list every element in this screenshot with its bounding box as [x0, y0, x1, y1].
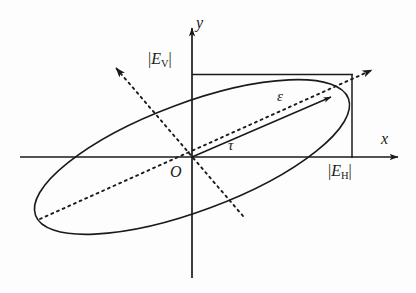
- ev-close-bar: |: [169, 50, 172, 67]
- eh-subscript: H: [341, 170, 349, 181]
- polarization-ellipse-figure: y x O |EV| |EH| ε τ: [0, 0, 416, 293]
- eh-symbol: E: [331, 162, 341, 179]
- semi-major-solid-ray: [192, 97, 331, 157]
- eh-close-bar: |: [349, 162, 352, 179]
- horizontal-amplitude-label: |EH|: [328, 163, 352, 181]
- major-axis-dashed-line: [40, 70, 372, 219]
- figure-canvas: [0, 0, 416, 293]
- vertical-amplitude-label: |EV|: [148, 51, 172, 69]
- ev-symbol: E: [151, 50, 161, 67]
- y-axis-label: y: [196, 15, 203, 31]
- ellipticity-angle-label: ε: [277, 89, 283, 104]
- ev-subscript: V: [161, 58, 169, 69]
- origin-label: O: [170, 164, 182, 180]
- orientation-angle-label: τ: [228, 138, 233, 153]
- x-axis-label: x: [381, 131, 388, 147]
